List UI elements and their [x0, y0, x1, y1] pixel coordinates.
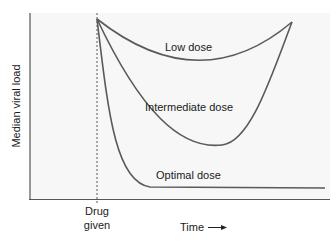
x-marker-label-line2: given: [84, 219, 110, 231]
viral-load-chart: Low dose Intermediate dose Optimal dose …: [0, 0, 336, 243]
label-low-dose: Low dose: [165, 41, 212, 53]
label-optimal-dose: Optimal dose: [156, 169, 221, 181]
x-marker-label-line1: Drug: [85, 205, 109, 217]
x-axis-label: Time: [180, 221, 204, 233]
y-axis-label: Median viral load: [10, 64, 22, 147]
arrow-right-icon: [208, 225, 227, 230]
label-intermediate-dose: Intermediate dose: [145, 101, 233, 113]
